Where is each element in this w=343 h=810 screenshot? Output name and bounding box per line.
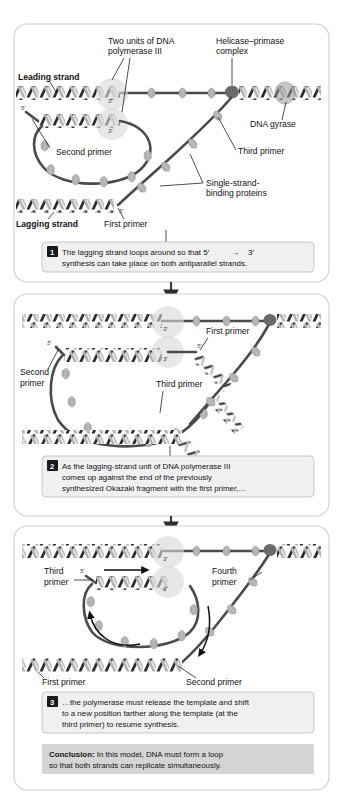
panel-1-caption-line1b: 3′ — [248, 248, 254, 257]
svg-text:Third primer: Third primer — [238, 146, 284, 156]
helicase-primase-blob — [225, 86, 239, 99]
lagging-strand-duplex-lower — [16, 199, 114, 213]
panel-2: 3′ 3′ 5′ 5′ First primer Second primer T… — [14, 294, 329, 516]
svg-text:primer: primer — [44, 577, 68, 587]
panel-3-caption-line2: to a new position farther along the temp… — [62, 709, 239, 718]
svg-text:complex: complex — [216, 46, 249, 56]
panel-1-caption-arrow: → — [232, 248, 240, 257]
svg-text:DNA gyrase: DNA gyrase — [250, 119, 296, 129]
svg-text:primer: primer — [212, 577, 236, 587]
panel-3-caption: 3 …the polymerase must release the templ… — [42, 692, 314, 733]
svg-text:Leading strand: Leading strand — [18, 72, 80, 82]
leading-duplex-2 — [22, 314, 162, 328]
polymerase-leading-unit-2 — [152, 306, 184, 338]
panel-2-caption-line1: As the lagging-strand unit of DNA polyme… — [62, 462, 230, 471]
dna-replication-figure: 3′ 3′ 5′ 5′ Two units of DNA polymerase … — [0, 0, 343, 810]
leading-duplex-3 — [22, 544, 162, 558]
panel-1-caption-line1: The lagging strand loops around so that … — [62, 248, 210, 257]
svg-text:Third: Third — [44, 566, 64, 576]
polymerase-leading-unit-3 — [152, 536, 184, 568]
conclusion-label: Conclusion: — [49, 750, 95, 759]
lagging-duplex-2 — [64, 348, 162, 362]
parental-duplex-3 — [277, 544, 321, 558]
panel-2-caption-line2: comes up against the end of the previous… — [62, 473, 212, 482]
svg-text:binding proteins: binding proteins — [206, 188, 267, 198]
panel-2-caption-line3: synthesized Okazaki fragment with the fi… — [62, 484, 246, 493]
polymerase-lagging-unit-3 — [152, 566, 184, 598]
panel-1: 3′ 3′ 5′ 5′ Two units of DNA polymerase … — [14, 24, 329, 282]
svg-text:Single-strand-: Single-strand- — [206, 178, 260, 188]
panel-3: 3′ 3′ 5′ Third primer Fourth primer Firs… — [14, 526, 329, 790]
svg-text:Two units of DNA: Two units of DNA — [108, 36, 175, 46]
svg-text:polymerase III: polymerase III — [108, 46, 162, 56]
parental-duplex-2 — [277, 314, 321, 328]
svg-text:First primer: First primer — [104, 219, 148, 229]
helicase-primase-blob-3 — [264, 544, 277, 556]
svg-text:Second primer: Second primer — [186, 677, 242, 687]
svg-text:Lagging strand: Lagging strand — [16, 219, 78, 229]
lagging-duplex-lower-2 — [22, 430, 182, 444]
svg-text:Second primer: Second primer — [56, 147, 112, 157]
svg-text:Conclusion: In this model, DNA: Conclusion: In this model, DNA must form… — [49, 750, 224, 759]
conclusion-line2: so that both strands can replicate simul… — [49, 761, 221, 770]
svg-text:First primer: First primer — [42, 677, 86, 687]
svg-text:First primer: First primer — [206, 326, 250, 336]
svg-text:Second: Second — [20, 367, 49, 377]
panel-1-caption-line2: synthesis can take place on both antipar… — [62, 259, 247, 268]
panel-3-number: 3 — [50, 698, 54, 707]
dna-gyrase-oval — [275, 82, 295, 104]
panel-3-caption-line3: third primer) to resume synthesis. — [62, 720, 179, 729]
polymerase-lagging-unit — [96, 108, 128, 140]
svg-text:primer: primer — [20, 378, 44, 388]
svg-text:Fourth: Fourth — [212, 566, 237, 576]
svg-text:Helicase–primase: Helicase–primase — [216, 36, 285, 46]
conclusion-line1: In this model, DNA must form a loop — [95, 750, 224, 759]
panel-3-caption-line1: …the polymerase must release the templat… — [62, 698, 250, 707]
svg-text:Third primer: Third primer — [156, 379, 202, 389]
conclusion-box: Conclusion: In this model, DNA must form… — [42, 744, 314, 774]
panel-2-number: 2 — [50, 462, 54, 471]
lagging-duplex-lower-3 — [22, 658, 182, 672]
helicase-primase-blob-2 — [264, 314, 277, 326]
